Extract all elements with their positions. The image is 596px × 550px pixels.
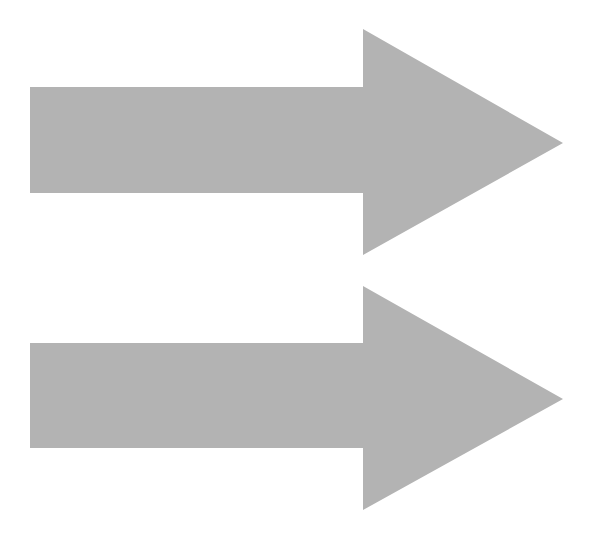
right-arrow-icon (30, 29, 563, 255)
arrows-diagram (0, 0, 596, 550)
right-arrow-icon (30, 286, 563, 510)
